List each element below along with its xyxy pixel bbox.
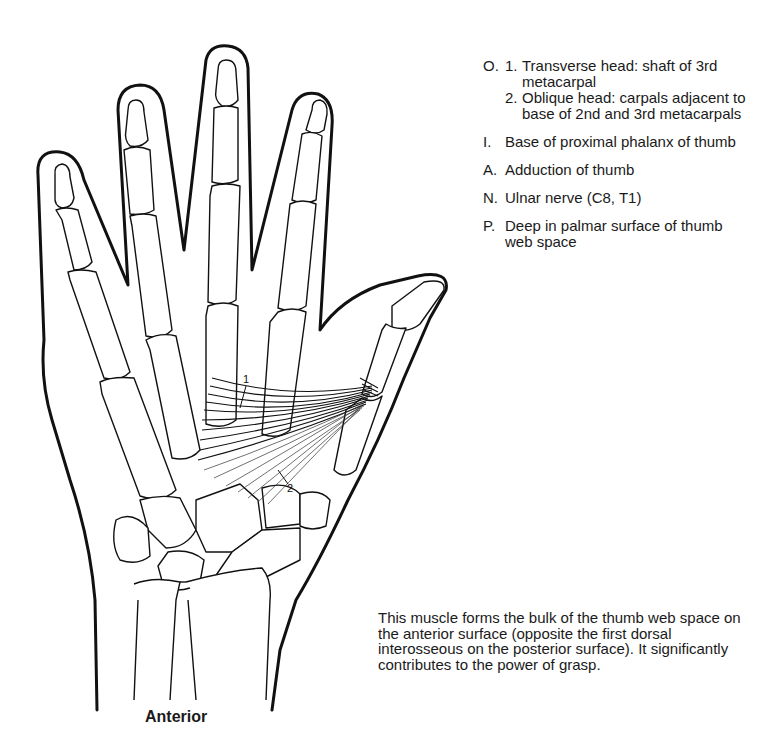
legend-action: A. Adduction of thumb [483,162,753,178]
legend-insertion: I. Base of proximal phalanx of thumb [483,134,753,150]
middle-finger-bones [206,60,240,426]
legend-origin: O. 1. Transverse head: shaft of 3rd meta… [483,58,753,122]
legend-palpation: P. Deep in palmar surface of thumb web s… [483,218,753,250]
forearm-bones [134,568,270,700]
svg-text:1: 1 [243,373,249,385]
muscle-legend: O. 1. Transverse head: shaft of 3rd meta… [483,58,753,262]
origin-transverse-head: 1. Transverse head: shaft of 3rd metacar… [505,58,753,90]
marker-transverse-head: 1 [240,373,249,408]
view-label: Anterior [145,708,207,726]
svg-text:2: 2 [287,482,293,494]
muscle-description: This muscle forms the bulk of the thumb … [378,610,748,672]
legend-key-origin: O. [483,58,505,122]
origin-oblique-head: 2. Oblique head: carpals adjacent to bas… [505,90,753,122]
thumb-bones [334,281,444,475]
index-finger-bones [262,100,327,436]
legend-nerve: N. Ulnar nerve (C8, T1) [483,190,753,206]
